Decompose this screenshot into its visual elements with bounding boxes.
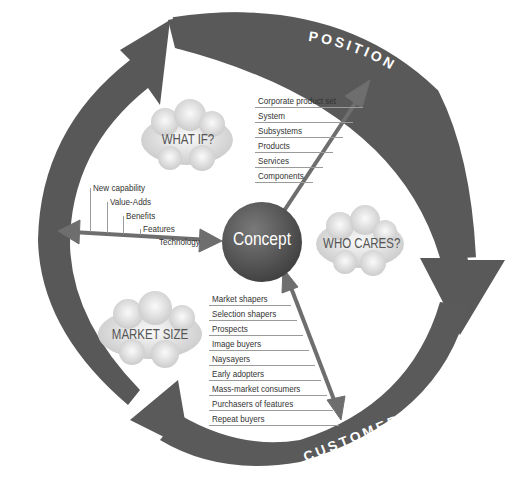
reinvent-label: REINVENT [18,206,34,286]
list-item: Mass-market consumers [209,380,327,396]
cloud-who-cares-text: WHO CARES? [323,235,397,251]
list-item: Market shapers [209,290,291,306]
list-item: New capability [93,182,145,193]
list-item: Purchasers of features [209,395,333,411]
list-item: Features [143,223,175,234]
list-item: Technology [159,236,200,247]
list-item: System [255,107,353,123]
list-item: Services [255,152,323,168]
cloud-what-if-text: WHAT IF? [158,131,217,147]
list-item: Components [255,167,313,183]
position-arc [168,13,505,336]
list-item: Corporate product set [255,92,363,108]
cloud-market-size-text: MARKET SIZE [109,326,191,342]
list-item: Early adopters [209,365,321,381]
list-item: Repeat buyers [209,410,339,426]
list-item: Selection shapers [209,305,297,321]
list-item: Prospects [209,320,303,336]
list-item: Benefits [126,210,155,221]
list-item: Image buyers [209,335,309,351]
list-item: Subsystems [255,122,343,138]
concept-label: Concept [228,228,297,250]
list-item: Products [255,137,333,153]
list-item: Value-Adds [110,196,151,207]
list-item: Naysayers [209,350,315,366]
